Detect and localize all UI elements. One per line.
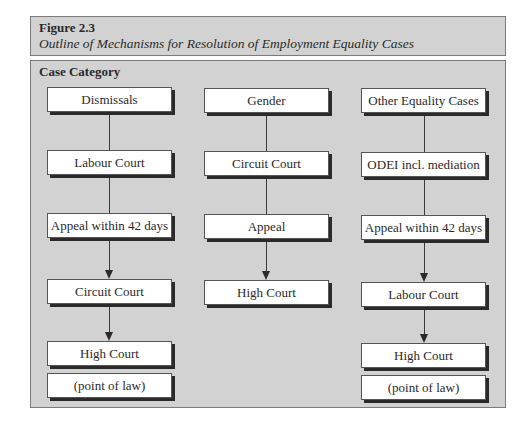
box-appeal-42-days: Appeal within 42 days xyxy=(361,215,486,240)
connector-line xyxy=(424,240,425,274)
figure-title: Outline of Mechanisms for Resolution of … xyxy=(39,36,414,52)
arrow-down-icon xyxy=(420,334,428,343)
connector-line xyxy=(266,113,267,151)
box-appeal: Appeal xyxy=(204,214,329,239)
arrow-down-icon xyxy=(105,270,113,279)
box-point-of-law: (point of law) xyxy=(361,375,486,400)
arrow-down-icon xyxy=(105,332,113,341)
box-circuit-court: Circuit Court xyxy=(47,279,172,304)
connector-line xyxy=(109,304,110,333)
connector-line xyxy=(266,176,267,214)
box-circuit-court: Circuit Court xyxy=(204,151,329,176)
box-point-of-law: (point of law) xyxy=(47,373,172,398)
arrow-down-icon xyxy=(420,273,428,282)
figure-header: Figure 2.3 Outline of Mechanisms for Res… xyxy=(30,16,506,56)
box-labour-court: Labour Court xyxy=(361,282,486,307)
box-appeal-42-days: Appeal within 42 days xyxy=(47,213,172,238)
connector-line xyxy=(424,307,425,335)
connector-line xyxy=(109,175,110,213)
box-high-court: High Court xyxy=(204,280,329,305)
connector-line xyxy=(424,177,425,215)
box-gender: Gender xyxy=(204,88,329,113)
connector-line xyxy=(266,239,267,272)
arrow-down-icon xyxy=(262,271,270,280)
box-labour-court: Labour Court xyxy=(47,150,172,175)
box-high-court: High Court xyxy=(47,341,172,366)
box-high-court: High Court xyxy=(361,343,486,368)
connector-line xyxy=(109,238,110,271)
box-odei-mediation: ODEI incl. mediation xyxy=(361,152,486,177)
connector-line xyxy=(424,114,425,152)
box-dismissals: Dismissals xyxy=(47,87,172,112)
case-category-heading: Case Category xyxy=(39,64,120,80)
box-other-equality-cases: Other Equality Cases xyxy=(361,88,486,113)
connector-line xyxy=(109,112,110,150)
figure-number: Figure 2.3 xyxy=(39,20,95,36)
